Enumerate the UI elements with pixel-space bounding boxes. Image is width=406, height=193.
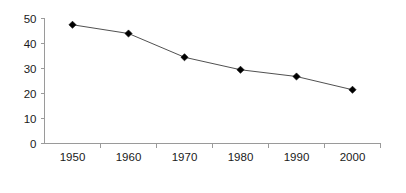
data-point-marker <box>349 86 356 93</box>
data-markers <box>69 21 356 93</box>
x-tick-label: 1950 <box>60 151 86 163</box>
y-tick-label: 20 <box>24 88 37 100</box>
x-tick-label: 1970 <box>172 151 198 163</box>
x-tick-label: 1960 <box>116 151 142 163</box>
y-tick-label: 10 <box>24 113 37 125</box>
data-point-marker <box>237 66 244 73</box>
data-point-marker <box>69 21 76 28</box>
x-tick-label: 1990 <box>284 151 310 163</box>
y-tick-label: 50 <box>24 13 37 25</box>
y-tick-label: 0 <box>30 138 36 150</box>
chart-canvas: 01020304050 195019601970198019902000 <box>0 0 406 193</box>
data-point-marker <box>125 30 132 37</box>
x-tick-label: 1980 <box>228 151 254 163</box>
data-point-marker <box>293 73 300 80</box>
x-axis: 195019601970198019902000 <box>45 144 381 163</box>
y-tick-label: 30 <box>24 63 37 75</box>
x-tick-label: 2000 <box>340 151 366 163</box>
series-polyline <box>73 25 353 90</box>
data-point-marker <box>181 54 188 61</box>
line-chart: 01020304050 195019601970198019902000 <box>0 0 406 193</box>
data-series <box>73 25 353 90</box>
y-axis: 01020304050 <box>24 13 45 150</box>
y-tick-label: 40 <box>24 38 37 50</box>
